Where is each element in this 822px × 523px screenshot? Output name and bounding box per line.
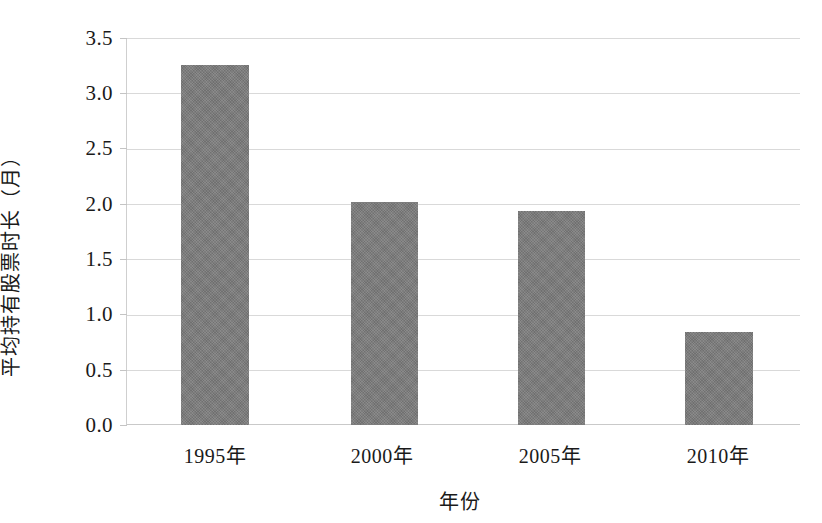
x-tick-label-2005: 2005年 — [480, 440, 620, 469]
y-tick-label: 0.0 — [53, 413, 113, 438]
y-axis-tick — [120, 148, 127, 149]
x-tick-label-1995: 1995年 — [145, 440, 285, 469]
bar-2005[interactable] — [518, 211, 585, 426]
y-axis-tick — [120, 38, 127, 39]
y-tick-label: 3.5 — [53, 26, 113, 51]
chart-figure: 平均持有股票时长（月） 3.5 3.0 2.5 2.0 1.5 1.0 0.5 … — [0, 0, 822, 523]
y-axis-tick — [120, 314, 127, 315]
y-tick-label: 1.5 — [53, 247, 113, 272]
y-axis-title: 平均持有股票时长（月） — [0, 0, 38, 523]
bar-2000[interactable] — [351, 202, 418, 425]
y-axis-tick — [120, 259, 127, 260]
y-tick-label: 2.0 — [53, 192, 113, 217]
y-axis-tick — [120, 370, 127, 371]
y-axis-tick-labels: 3.5 3.0 2.5 2.0 1.5 1.0 0.5 0.0 — [47, 0, 113, 523]
y-tick-label: 3.0 — [53, 81, 113, 106]
plot-area — [127, 38, 800, 425]
y-tick-label: 2.5 — [53, 136, 113, 161]
bar-2010[interactable] — [685, 332, 753, 425]
y-tick-label: 0.5 — [53, 358, 113, 383]
x-axis-title: 年份 — [127, 486, 793, 515]
bar-1995[interactable] — [181, 65, 249, 425]
y-tick-label: 1.0 — [53, 302, 113, 327]
y-axis-tick — [120, 93, 127, 94]
x-tick-label-2010: 2010年 — [648, 440, 788, 469]
y-axis-tick — [120, 204, 127, 205]
gridline — [127, 38, 800, 39]
x-tick-label-2000: 2000年 — [312, 440, 452, 469]
y-axis-tick — [120, 425, 127, 426]
